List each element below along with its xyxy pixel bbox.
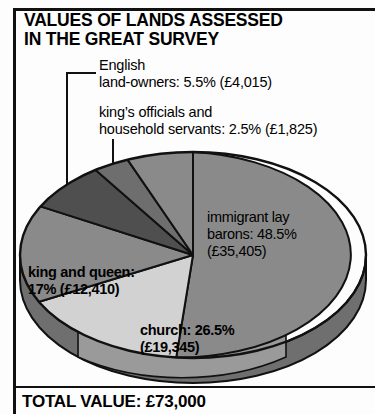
slice-label-kings-officials: king’s officials and household servants:… bbox=[99, 104, 317, 138]
slice-label-english-land-owners: English land-owners: 5.5% (£4,015) bbox=[99, 57, 272, 91]
slice-label-church-line-1: church: 26.5% bbox=[140, 322, 234, 339]
slice-label-immigrant-lay-barons-line-2: barons: 48.5% bbox=[207, 226, 297, 243]
slice-label-king-and-queen-line-2: 17% (£12,410) bbox=[28, 281, 135, 298]
chart-title-line-1: VALUES OF LANDS ASSESSED bbox=[24, 11, 354, 30]
chart-figure: VALUES OF LANDS ASSESSED IN THE GREAT SU… bbox=[0, 0, 375, 414]
slice-label-english-land-owners-line-1: English bbox=[99, 57, 272, 74]
slice-label-immigrant-lay-barons-line-3: (£35,405) bbox=[207, 243, 297, 260]
chart-title-line-2: IN THE GREAT SURVEY bbox=[24, 30, 354, 49]
slice-label-immigrant-lay-barons-line-1: immigrant lay bbox=[207, 209, 297, 226]
slice-label-kings-officials-line-2: household servants: 2.5% (£1,825) bbox=[99, 121, 317, 138]
slice-label-kings-officials-line-1: king’s officials and bbox=[99, 104, 317, 121]
slice-label-king-and-queen-line-1: king and queen: bbox=[28, 264, 135, 281]
slice-label-church-line-2: (£19,345) bbox=[140, 339, 234, 356]
slice-label-king-and-queen: king and queen: 17% (£12,410) bbox=[28, 264, 135, 298]
slice-label-immigrant-lay-barons: immigrant lay barons: 48.5% (£35,405) bbox=[207, 209, 297, 260]
chart-title: VALUES OF LANDS ASSESSED IN THE GREAT SU… bbox=[24, 11, 354, 49]
frame-left-rule bbox=[13, 8, 16, 414]
slice-label-church: church: 26.5% (£19,345) bbox=[140, 322, 234, 356]
total-value-text: TOTAL VALUE: £73,000 bbox=[22, 392, 206, 412]
slice-label-english-land-owners-line-2: land-owners: 5.5% (£4,015) bbox=[99, 74, 272, 91]
leader-line-english-land-owners-horizontal bbox=[66, 72, 96, 74]
